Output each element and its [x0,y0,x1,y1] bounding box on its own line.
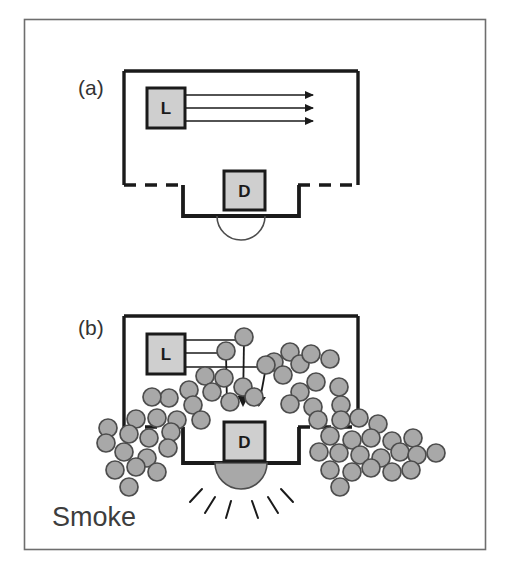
smoke-particle [192,411,210,429]
smoke-particle [148,409,166,427]
smoke-particle [321,350,339,368]
detector-box-a: D [224,171,265,210]
figure-background [0,0,508,576]
smoke-particle [281,395,299,413]
smoke-particle [162,423,180,441]
smoke-particle [427,444,445,462]
figure-root: (a) L [0,0,508,576]
smoke-particle [391,443,409,461]
panel-b-label: (b) [78,316,104,339]
smoke-particle [307,373,325,391]
smoke-particle [274,366,292,384]
smoke-particle [332,411,350,429]
smoke-particle [343,463,361,481]
detector-label-a: D [238,182,250,201]
smoke-particle [159,439,177,457]
smoke-particle [330,378,348,396]
smoke-particle [120,425,138,443]
smoke-detector-diagram: (a) L [0,0,508,576]
smoke-particle [331,478,349,496]
smoke-particle [302,345,320,363]
smoke-particle [404,429,422,447]
smoke-particle [127,458,145,476]
smoke-particle [362,459,380,477]
detector-label-b: D [238,433,250,452]
smoke-particle [310,443,328,461]
smoke-particle [362,429,380,447]
light-source-label-b: L [161,345,171,364]
smoke-particle [115,443,133,461]
scattering-particle [257,356,275,374]
light-source-box-b: L [147,334,185,374]
smoke-particle [221,393,239,411]
smoke-particle [160,389,178,407]
light-source-label-a: L [161,99,171,118]
light-source-box-a: L [147,88,185,128]
smoke-particle [350,409,368,427]
panel-a-label: (a) [78,76,104,99]
smoke-particle [321,427,339,445]
smoke-particle [321,461,339,479]
smoke-particle [140,429,158,447]
detector-box-b: D [224,422,265,461]
smoke-particle [383,463,401,481]
smoke-particle [402,461,420,479]
smoke-particle [120,478,138,496]
smoke-particle [330,444,348,462]
smoke-particle [245,388,263,406]
scattering-particle [217,342,235,360]
smoke-label: Smoke [52,502,136,532]
scattering-particle [235,328,253,346]
smoke-particle [106,461,124,479]
smoke-particle [143,388,161,406]
smoke-particle [309,411,327,429]
smoke-particle [148,463,166,481]
smoke-particle [203,383,221,401]
smoke-particle [97,434,115,452]
